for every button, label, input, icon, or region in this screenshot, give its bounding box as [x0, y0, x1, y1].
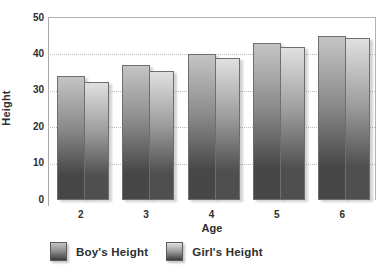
y-tick-label-10: 10: [18, 157, 44, 168]
bar-girl-age-4: [215, 58, 240, 200]
y-tick-label-0: 0: [18, 194, 44, 205]
plot-area: [48, 17, 376, 200]
y-axis-title: Height: [0, 76, 12, 140]
x-tick-label-4: 4: [200, 209, 224, 220]
x-tick-label-6: 6: [330, 209, 354, 220]
legend-swatch-icon: [50, 242, 67, 261]
y-tick-label-20: 20: [18, 121, 44, 132]
legend-item-girls-height: Girl's Height: [166, 242, 263, 261]
bar-girl-age-2: [84, 82, 109, 200]
bar-girl-age-5: [280, 47, 305, 200]
x-tick-label-3: 3: [134, 209, 158, 220]
bar-boy-age-2: [57, 76, 85, 200]
bar-boy-age-4: [188, 54, 216, 200]
y-tick-label-50: 50: [18, 12, 44, 23]
legend-item-boys-height: Boy's Height: [50, 242, 148, 261]
bar-boy-age-3: [122, 65, 150, 200]
y-tick-label-30: 30: [18, 84, 44, 95]
x-tick-label-5: 5: [265, 209, 289, 220]
height-bar-chart: Height 01020304050 23456 Age Boy's Heigh…: [0, 0, 384, 276]
x-tick-label-2: 2: [69, 209, 93, 220]
bar-girl-age-6: [345, 38, 370, 200]
legend-label: Boy's Height: [76, 246, 148, 258]
legend-swatch-icon: [166, 242, 183, 261]
y-tick-label-40: 40: [18, 48, 44, 59]
x-axis-title: Age: [199, 222, 225, 234]
bar-girl-age-3: [149, 71, 174, 200]
bar-boy-age-5: [253, 43, 281, 200]
legend: Boy's HeightGirl's Height: [50, 242, 263, 261]
bar-boy-age-6: [318, 36, 346, 200]
legend-label: Girl's Height: [192, 246, 263, 258]
